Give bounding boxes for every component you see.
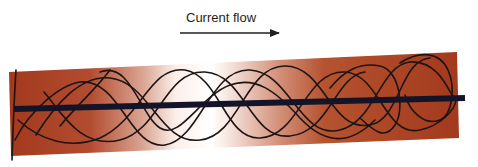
current-flow-label: Current flow xyxy=(186,10,257,25)
current-flow-diagram: Current flow xyxy=(0,0,478,167)
